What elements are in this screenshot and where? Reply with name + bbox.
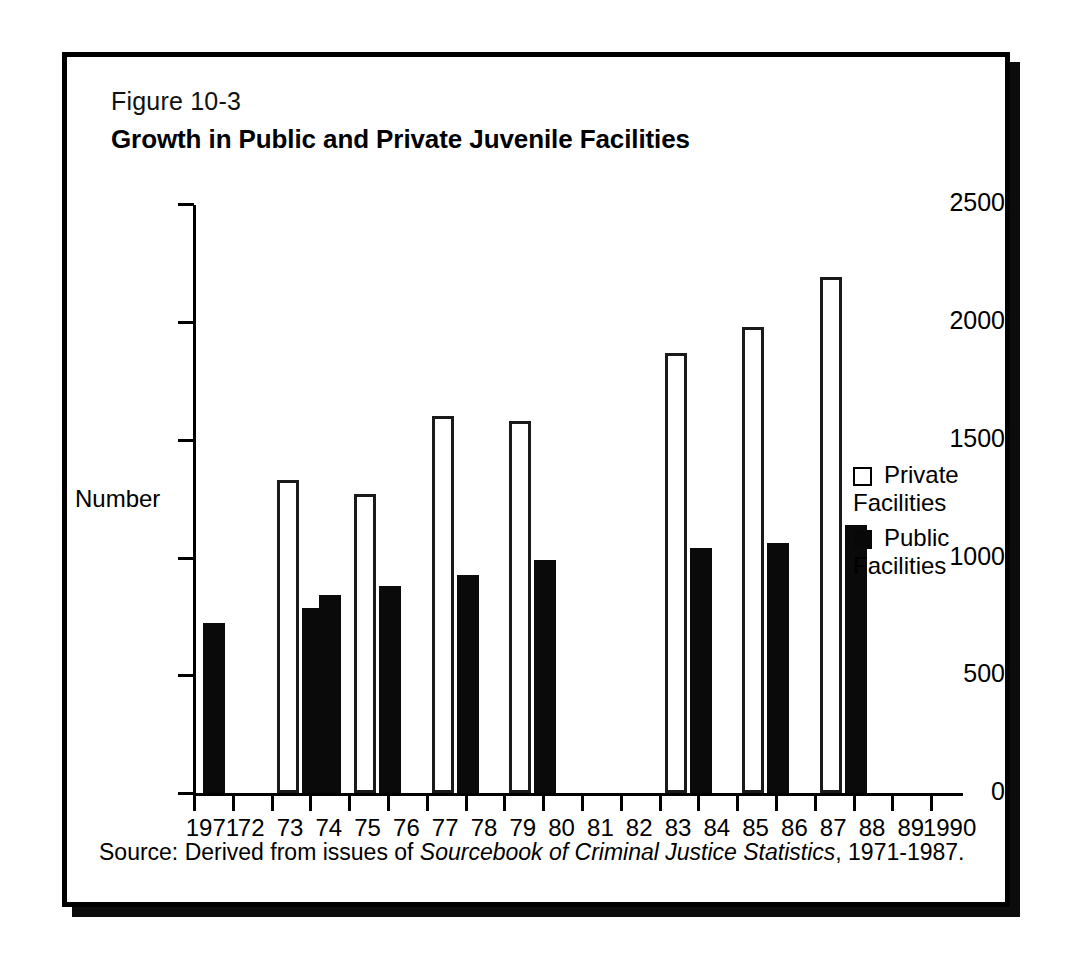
x-tick-label: 74 [315,814,342,842]
bar-public-facilities [690,548,712,793]
x-tick-mark [775,796,778,811]
private-swatch-icon [853,467,872,486]
y-tick-mark [178,792,194,795]
bar-private-facilities [509,421,531,793]
legend-item-private: Private Facilities [853,461,1003,518]
bar-private-facilities [354,494,376,793]
source-note: Source: Derived from issues of Sourceboo… [99,839,964,866]
x-tick-mark [387,796,390,811]
x-tick-label: 85 [742,814,769,842]
bar-private-facilities [432,416,454,793]
x-tick-label: 72 [238,814,265,842]
x-tick-label: 86 [781,814,808,842]
bar-public-facilities [767,543,789,793]
y-tick-mark [178,203,194,206]
source-prefix: Source: Derived from issues of [99,839,420,865]
y-axis-title: Number [75,485,160,513]
bar-private-facilities [742,327,764,793]
x-tick-mark [503,796,506,811]
bar-public-facilities [534,560,556,793]
chart-plot-area: 05001000150020002500 1971727374757677787… [67,57,1005,902]
x-tick-mark [309,796,312,811]
x-tick-label: 1971 [186,814,239,842]
y-tick-mark [178,674,194,677]
x-tick-label: 80 [548,814,575,842]
x-tick-label: 1990 [923,814,976,842]
x-tick-label: 76 [393,814,420,842]
y-tick-mark [178,557,194,560]
figure-frame: Figure 10-3 Growth in Public and Private… [62,52,1010,907]
y-tick-mark [178,439,194,442]
x-tick-mark [426,796,429,811]
chart-legend: Private Facilities Public Facilities [853,461,1003,586]
bar-private-facilities [665,353,687,793]
x-tick-label: 83 [665,814,692,842]
x-tick-mark [891,796,894,811]
bar-private-facilities [820,277,842,793]
x-tick-label: 79 [509,814,536,842]
bar-private-facilities [277,480,299,793]
x-tick-mark [930,796,933,811]
x-tick-label: 89 [897,814,924,842]
x-tick-mark [581,796,584,811]
x-tick-mark [271,796,274,811]
x-tick-label: 84 [703,814,730,842]
x-tick-label: 81 [587,814,614,842]
bar-public-facilities [319,595,341,793]
source-suffix: , 1971-1987. [835,839,964,865]
x-tick-mark [697,796,700,811]
source-title: Sourcebook of Criminal Justice Statistic… [420,839,835,865]
x-tick-label: 88 [859,814,886,842]
x-tick-label: 82 [626,814,653,842]
figure-page: Figure 10-3 Growth in Public and Private… [0,0,1077,970]
x-tick-mark [620,796,623,811]
bar-public-facilities [457,575,479,793]
x-tick-mark [542,796,545,811]
x-tick-mark [659,796,662,811]
x-tick-mark [348,796,351,811]
y-tick-mark [178,321,194,324]
legend-item-public: Public Facilities [853,524,1003,581]
bar-public-facilities [203,623,225,793]
bar-public-facilities [379,586,401,793]
x-tick-mark [232,796,235,811]
x-tick-label: 77 [432,814,459,842]
x-tick-label: 75 [354,814,381,842]
bars-layer [193,205,963,793]
x-tick-label: 87 [820,814,847,842]
x-tick-label: 73 [277,814,304,842]
x-tick-mark [814,796,817,811]
x-tick-mark [853,796,856,811]
public-swatch-icon [853,530,872,549]
x-tick-mark [465,796,468,811]
x-tick-mark [193,796,196,811]
x-tick-mark [736,796,739,811]
x-tick-label: 78 [471,814,498,842]
